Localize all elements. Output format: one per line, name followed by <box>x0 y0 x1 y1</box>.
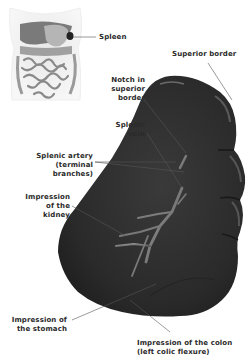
label-line: Impression of <box>12 316 67 325</box>
label-line: branches) <box>36 170 93 179</box>
label-line: (left colic flexure) <box>137 348 232 357</box>
label-line: Notch in <box>111 76 145 85</box>
label-line: the stomach <box>12 325 67 334</box>
label-line: Impression of the colon <box>137 339 232 348</box>
spleen-anatomy-figure: Spleen Superior border Notch in superior… <box>0 0 249 358</box>
label-line: Splenic <box>116 121 145 130</box>
label-line: Impression <box>25 193 70 202</box>
label-colon-impression: Impression of the colon (left colic flex… <box>137 339 232 357</box>
label-spleen: Spleen <box>99 33 127 42</box>
label-splenic-artery: Splenic artery (terminal branches) <box>36 152 93 179</box>
label-line: vein <box>116 130 145 139</box>
label-notch-superior-border: Notch in superior border <box>111 76 145 103</box>
label-kidney-impression: Impression of the kidney <box>25 193 70 220</box>
label-line: kidney <box>25 211 70 220</box>
spleen-organ <box>58 76 245 317</box>
label-line: Splenic artery <box>36 152 93 161</box>
label-line: superior <box>111 85 145 94</box>
label-line: border <box>111 94 145 103</box>
label-line: of the <box>25 202 70 211</box>
torso-inset <box>10 8 82 100</box>
label-stomach-impression: Impression of the stomach <box>12 316 67 334</box>
label-splenic-vein: Splenic vein <box>116 121 145 139</box>
label-superior-border: Superior border <box>172 50 236 59</box>
label-line: (terminal <box>36 161 93 170</box>
